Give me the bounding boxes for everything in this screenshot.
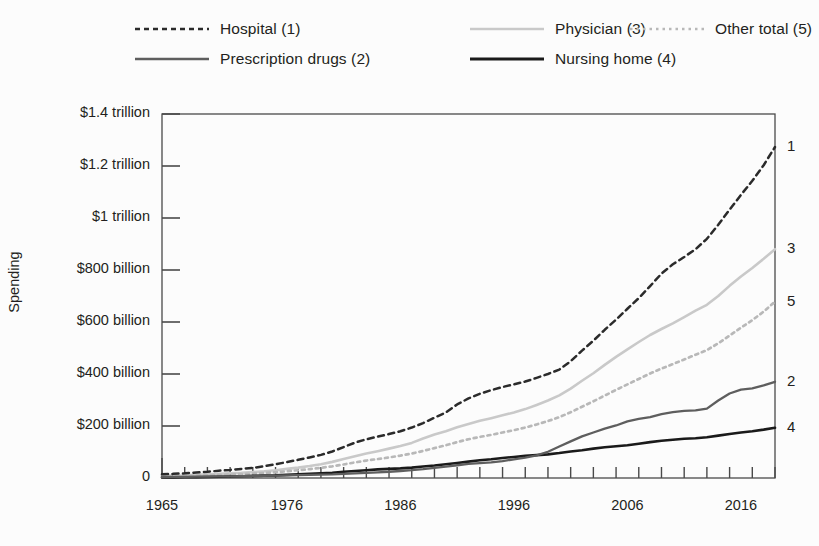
plot-area: Spending $1.4 trillion$1.2 trillion$1 tr…	[0, 0, 819, 546]
series-line	[162, 382, 775, 477]
series-line	[162, 428, 775, 478]
spending-line-chart: Hospital (1)Prescription drugs (2)Physic…	[0, 0, 819, 546]
series-line	[162, 302, 775, 477]
chart-canvas	[0, 0, 819, 546]
series-line	[162, 249, 775, 476]
